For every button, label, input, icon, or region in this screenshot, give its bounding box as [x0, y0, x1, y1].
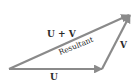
sum-label: U + V: [47, 29, 77, 39]
u-label: U: [50, 72, 58, 82]
vector-diagram: U + V Resultant V U: [0, 0, 138, 84]
v-label: V: [119, 40, 128, 50]
resultant-arrow: [9, 15, 129, 69]
